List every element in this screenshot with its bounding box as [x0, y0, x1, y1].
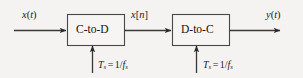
diagram-canvas	[0, 0, 303, 78]
sampling-period-label-ctod: Ts=1/fs	[98, 60, 128, 70]
signal-input-close: )	[33, 9, 37, 20]
block-label-c-to-d: C-to-D	[76, 24, 109, 36]
block-label-d-to-c: D-to-C	[181, 24, 214, 36]
sampling-numerator-2: 1/	[220, 59, 228, 70]
signal-label-output: y(t)	[266, 10, 281, 21]
signal-label-intermediate: x[n]	[131, 10, 148, 21]
sampling-numerator-1: 1/	[115, 59, 123, 70]
block-diagram: C-to-D D-to-C x(t) x[n] y(t) Ts=1/fs Ts=…	[0, 0, 303, 78]
sampling-denominator-sub-1: s	[125, 63, 128, 70]
signal-output-close: )	[277, 9, 281, 20]
sampling-denominator-sub-2: s	[230, 63, 233, 70]
sampling-equals-2: =	[211, 59, 220, 70]
sampling-period-label-dtoc: Ts=1/fs	[203, 60, 233, 70]
signal-intermediate-close: ]	[144, 9, 148, 20]
sampling-equals-1: =	[106, 59, 115, 70]
signal-label-input: x(t)	[22, 10, 37, 21]
